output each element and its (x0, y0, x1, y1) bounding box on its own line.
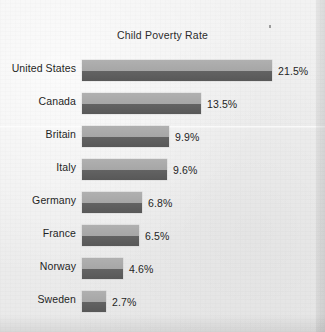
bar-category-label: Italy (0, 161, 76, 173)
bar-category-label: United States (0, 62, 76, 74)
bar-segment-light (82, 60, 272, 71)
bar-segment-light (82, 192, 142, 203)
bar (82, 60, 272, 81)
bar-value-label: 9.9% (175, 131, 199, 143)
bar-value-label: 6.8% (148, 197, 172, 209)
bar-value-label: 13.5% (207, 98, 237, 110)
bar-chart-plot-area: United States21.5%Canada13.5%Britain9.9%… (0, 60, 325, 324)
chart-page: Child Poverty Rate United States21.5%Can… (0, 0, 325, 332)
bar-segment-light (82, 225, 139, 236)
bar-row: Sweden2.7% (0, 291, 325, 324)
bar-row: Canada13.5% (0, 93, 325, 126)
bar (82, 291, 106, 312)
scan-speck-artifact (269, 25, 271, 28)
bar-segment-dark (82, 137, 169, 147)
bar (82, 93, 201, 114)
bar (82, 126, 169, 147)
bar-category-label: France (0, 227, 76, 239)
bar-category-label: Norway (0, 260, 76, 272)
bar-segment-dark (82, 203, 142, 213)
bar-segment-dark (82, 269, 123, 279)
bar-segment-light (82, 291, 106, 302)
bar-row: Italy9.6% (0, 159, 325, 192)
bar-row: Germany6.8% (0, 192, 325, 225)
bar-value-label: 21.5% (278, 65, 308, 77)
bar-segment-light (82, 126, 169, 137)
bar-row: Britain9.9% (0, 126, 325, 159)
bar-category-label: Germany (0, 194, 76, 206)
bar-segment-dark (82, 104, 201, 114)
bar-row: France6.5% (0, 225, 325, 258)
bar-segment-light (82, 93, 201, 104)
bar (82, 258, 123, 279)
bar-category-label: Britain (0, 128, 76, 140)
bar-segment-dark (82, 71, 272, 81)
bar-value-label: 2.7% (112, 296, 136, 308)
bar-row: United States21.5% (0, 60, 325, 93)
bar-segment-light (82, 258, 123, 269)
bar-segment-dark (82, 170, 167, 180)
bar-value-label: 9.6% (173, 164, 197, 176)
bar-category-label: Sweden (0, 293, 76, 305)
bar-segment-dark (82, 236, 139, 246)
bar-segment-light (82, 159, 167, 170)
bar (82, 192, 142, 213)
bar-value-label: 6.5% (145, 230, 169, 242)
bar-value-label: 4.6% (129, 263, 153, 275)
bar (82, 159, 167, 180)
chart-title: Child Poverty Rate (0, 29, 325, 41)
bar-row: Norway4.6% (0, 258, 325, 291)
bar-category-label: Canada (0, 95, 76, 107)
bar-segment-dark (82, 302, 106, 312)
bar (82, 225, 139, 246)
